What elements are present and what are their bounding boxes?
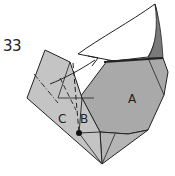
reference-point-dot	[76, 130, 82, 136]
label-c: C	[58, 112, 66, 126]
diagram-canvas: A B C	[0, 0, 175, 176]
origami-diagram: 33 A B C	[0, 0, 175, 176]
label-b: B	[80, 112, 88, 126]
lower-right-facet	[100, 130, 148, 164]
label-a: A	[128, 92, 137, 106]
step-number: 33	[3, 37, 21, 55]
white-flap	[78, 4, 158, 61]
